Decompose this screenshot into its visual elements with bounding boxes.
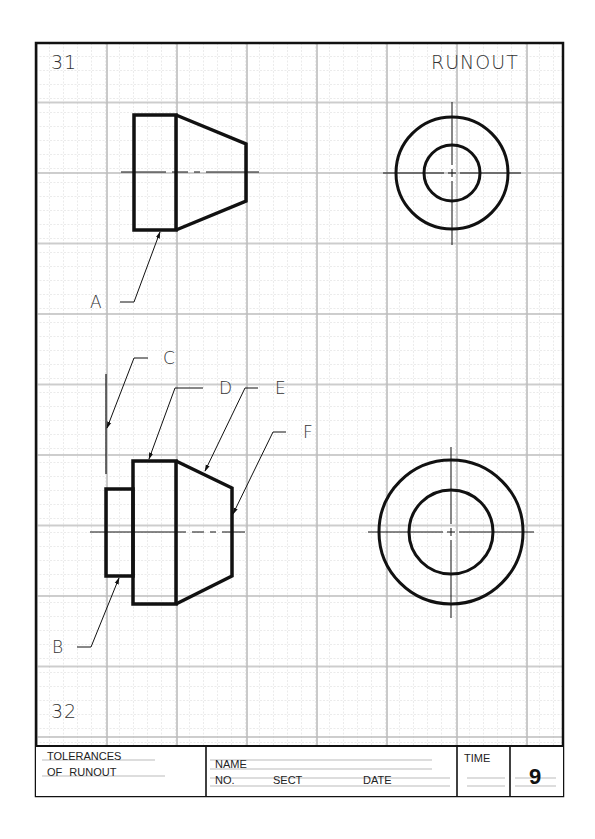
sect-label: SECT <box>273 775 302 786</box>
drawing-sheet: 31 RUNOUT 32 A B C D E F TOLERANCES OF R… <box>0 0 595 839</box>
callout-b: B <box>52 639 64 656</box>
sheet-title: RUNOUT <box>431 53 519 72</box>
no-label: NO. <box>215 775 235 786</box>
problem-number-31: 31 <box>51 53 77 72</box>
drawing-canvas <box>0 0 595 839</box>
sheet-number: 9 <box>529 766 541 788</box>
title-block-title-line2: OF RUNOUT <box>47 767 116 778</box>
callout-c: C <box>163 350 176 367</box>
date-label: DATE <box>363 775 392 786</box>
time-label: TIME <box>464 753 490 764</box>
callout-a: A <box>90 294 103 311</box>
callout-d: D <box>219 380 233 397</box>
callout-f: F <box>303 424 314 441</box>
name-label: NAME <box>215 759 247 770</box>
problem-number-32: 32 <box>51 702 77 721</box>
graph-paper-grid <box>37 44 563 746</box>
title-block-title-line1: TOLERANCES <box>47 751 121 762</box>
callout-e: E <box>275 380 287 397</box>
